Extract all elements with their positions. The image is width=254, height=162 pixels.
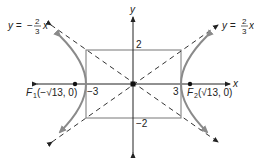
tick-y-pos: 2 <box>136 39 142 50</box>
svg-text:x: x <box>248 20 254 31</box>
svg-text:3: 3 <box>35 27 40 36</box>
focus-f2-point <box>188 82 192 86</box>
svg-text:−: − <box>27 20 33 31</box>
svg-text:y =: y = <box>221 20 236 31</box>
x-axis-label: x <box>232 78 239 89</box>
svg-text:3: 3 <box>242 27 247 36</box>
focus-f1-label: F 1 (−√13, 0) <box>26 87 77 99</box>
asymptote-positive-equation: y = 2 3 x <box>221 17 254 36</box>
hyperbola-diagram: y x 2 −2 −3 3 F 1 (−√13, 0) F 2 (√13, 0)… <box>0 0 254 162</box>
svg-text:y =: y = <box>7 20 22 31</box>
svg-text:F: F <box>26 87 33 98</box>
svg-text:2: 2 <box>35 17 40 26</box>
svg-text:(√13, 0): (√13, 0) <box>198 87 232 98</box>
svg-text:x: x <box>42 20 49 31</box>
y-axis-label: y <box>129 4 136 15</box>
tick-y-neg: −2 <box>136 118 148 129</box>
tick-x-pos: 3 <box>173 86 179 97</box>
focus-f1-point <box>73 82 77 86</box>
svg-text:2: 2 <box>242 17 247 26</box>
focus-f2-label: F 2 (√13, 0) <box>187 87 232 99</box>
svg-text:(−√13, 0): (−√13, 0) <box>37 87 77 98</box>
svg-text:F: F <box>187 87 194 98</box>
asymptote-negative-equation: y = − 2 3 x <box>7 17 49 36</box>
origin-point <box>131 82 136 87</box>
tick-x-neg: −3 <box>87 86 99 97</box>
